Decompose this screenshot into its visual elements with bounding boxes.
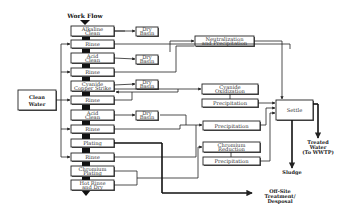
dry-basins: Dry Basin Dry Basin Dry Basin Dry Basin [114,26,159,121]
svg-text:Basin: Basin [140,30,155,36]
svg-text:Plating: Plating [83,140,102,147]
dry-basin-2[interactable]: Dry Basin [136,54,159,65]
svg-text:Precipitation: Precipitation [215,158,250,165]
svg-text:Clean: Clean [85,57,101,63]
step-rinse-2[interactable]: Rinse [71,68,115,77]
cyanide-oxidization[interactable]: Cyanide Oxidization [202,84,259,96]
step-acid-clean-1[interactable]: Acid Clean [71,53,115,65]
svg-text:Desposal: Desposal [267,198,292,205]
offsite-label: Off-Site Treatment/ Desposal [265,188,296,205]
svg-text:Clean: Clean [85,30,101,36]
svg-text:Sludge: Sludge [282,169,301,176]
svg-text:Basin: Basin [140,114,155,120]
svg-text:Rinse: Rinse [85,69,100,75]
dry-basin-1[interactable]: Dry Basin [136,26,159,37]
neutralization-precipitation[interactable]: Neutralization and Precipitation [195,36,255,48]
sludge-label: Sludge [282,169,301,176]
step-rinse-4[interactable]: Rinse [71,125,115,134]
dry-basin-3[interactable]: Dry Basin [136,79,159,90]
step-alkaline-clean[interactable]: Alkaline Clean [71,26,115,38]
precipitation-3[interactable]: Precipitation [203,157,261,166]
step-cyanide-copper-strike[interactable]: Cyanide Copper Strike [71,81,115,93]
svg-text:Water: Water [28,101,46,107]
workflow-diagram: Work Flow Alkaline Clean Rinse Ac [0,0,347,213]
svg-text:Rinse: Rinse [85,41,100,47]
chromium-reduction[interactable]: Chromium Reduction [203,142,261,154]
process-column: Alkaline Clean Rinse Acid Clean Rinse Cy… [71,26,115,197]
workflow-title: Work Flow [66,12,103,19]
svg-text:Basin: Basin [140,58,155,64]
step-hot-rinse-dry[interactable]: Hot Rinse and Dry [71,180,115,192]
svg-text:Rinse: Rinse [85,154,100,160]
svg-text:Settle: Settle [287,107,303,113]
svg-text:Precipitation: Precipitation [213,100,248,107]
svg-text:and Precipitation: and Precipitation [202,40,248,47]
treated-water-label: Treated Water (To WWTP) [302,139,334,155]
svg-text:Copper Strike: Copper Strike [74,85,111,92]
clean-water-feed-lines [56,44,70,157]
settle[interactable]: Settle [276,100,314,121]
step-rinse-5[interactable]: Rinse [71,153,115,162]
svg-text:Clean: Clean [29,94,45,100]
svg-text:Reduction: Reduction [218,146,245,152]
step-rinse-3[interactable]: Rinse [71,96,115,105]
svg-text:(To WWTP): (To WWTP) [302,149,334,155]
clean-water[interactable]: Clean Water [18,90,57,111]
svg-text:and Dry: and Dry [82,184,103,191]
svg-text:Clean: Clean [85,114,101,120]
precipitation-2[interactable]: Precipitation [203,121,261,131]
step-chromium-plating[interactable]: Chromium Plating [71,166,115,178]
svg-text:Basin: Basin [140,83,155,89]
step-acid-clean-2[interactable]: Acid Clean [71,110,115,122]
dry-basin-4[interactable]: Dry Basin [136,110,159,121]
svg-text:Rinse: Rinse [85,97,100,103]
svg-text:Oxidization: Oxidization [215,88,246,94]
precipitation-1[interactable]: Precipitation [202,99,259,108]
step-rinse-1[interactable]: Rinse [71,40,115,49]
down-arrow-icon [80,20,90,25]
treatment-units: Neutralization and Precipitation Cyanide… [195,36,314,167]
svg-text:Plating: Plating [83,170,102,177]
svg-text:Precipitation: Precipitation [215,123,250,130]
svg-text:Rinse: Rinse [85,126,100,132]
step-plating[interactable]: Plating [71,139,115,148]
